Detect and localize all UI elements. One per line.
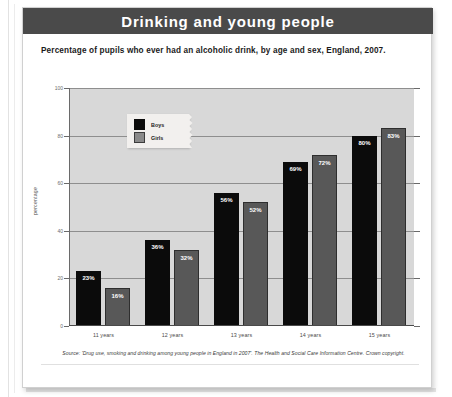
y-axis-tick-right bbox=[414, 183, 420, 184]
bar-boys-14-years[interactable]: 69% bbox=[283, 162, 308, 326]
card-shadow bbox=[26, 388, 436, 392]
y-axis-tick-right bbox=[414, 136, 420, 137]
y-axis-tick-right bbox=[414, 278, 420, 279]
y-axis-tick-label: 0 bbox=[45, 323, 63, 329]
bar-boys-15-years[interactable]: 80% bbox=[352, 136, 377, 326]
bar-boys-13-years[interactable]: 56% bbox=[214, 193, 239, 326]
y-axis-tick-label: 40 bbox=[45, 228, 63, 234]
bar-value-label: 36% bbox=[151, 244, 163, 326]
legend-label-girls: Girls bbox=[151, 135, 163, 141]
page-title: Drinking and young people bbox=[121, 13, 334, 30]
bar-boys-11-years[interactable]: 23% bbox=[76, 271, 101, 326]
bar-boys-12-years[interactable]: 36% bbox=[145, 240, 170, 326]
source-note: Source: 'Drug use, smoking and drinking … bbox=[51, 350, 416, 356]
bar-group: 80%83% bbox=[352, 88, 407, 326]
y-axis-tick-label: 60 bbox=[45, 180, 63, 186]
bar-series-container: 23%16%36%32%56%52%69%72%80%83% bbox=[69, 88, 414, 326]
bar-value-label: 72% bbox=[318, 160, 330, 325]
y-axis-tick-label: 20 bbox=[45, 275, 63, 281]
bar-value-label: 52% bbox=[249, 207, 261, 325]
y-axis-tick-right bbox=[414, 231, 420, 232]
chart-legend: Boys Girls bbox=[127, 114, 189, 148]
legend-label-boys: Boys bbox=[151, 122, 164, 128]
y-axis-title: percentage bbox=[32, 171, 38, 231]
legend-torn-edge-icon bbox=[189, 114, 194, 148]
y-axis-tick-right bbox=[414, 88, 420, 89]
bar-group: 23%16% bbox=[76, 88, 131, 326]
bar-value-label: 69% bbox=[289, 166, 301, 326]
bar-value-label: 16% bbox=[111, 293, 123, 325]
legend-swatch-boys-icon bbox=[134, 119, 145, 130]
y-axis-tick-label: 100 bbox=[45, 85, 63, 91]
x-axis-tick-label: 15 years bbox=[335, 332, 425, 338]
bar-girls-12-years[interactable]: 32% bbox=[174, 250, 199, 326]
chart-subtitle: Percentage of pupils who ever had an alc… bbox=[41, 46, 421, 55]
source-divider bbox=[41, 364, 419, 365]
bar-value-label: 23% bbox=[82, 275, 94, 326]
legend-swatch-girls-icon bbox=[134, 132, 145, 143]
title-bar: Drinking and young people bbox=[23, 8, 433, 34]
bar-girls-11-years[interactable]: 16% bbox=[105, 288, 130, 326]
plot-wrapper: 020406080100 23%16%36%32%56%52%69%72%80%… bbox=[69, 88, 414, 326]
legend-item-boys: Boys bbox=[134, 119, 164, 130]
bar-group: 56%52% bbox=[214, 88, 269, 326]
bar-girls-14-years[interactable]: 72% bbox=[312, 155, 337, 326]
bar-girls-13-years[interactable]: 52% bbox=[243, 202, 268, 326]
page-inner-edge-line bbox=[14, 4, 15, 393]
page-edge-line bbox=[8, 0, 9, 397]
bar-value-label: 56% bbox=[220, 197, 232, 326]
legend-item-girls: Girls bbox=[134, 132, 163, 143]
bar-value-label: 83% bbox=[387, 133, 399, 325]
bar-girls-15-years[interactable]: 83% bbox=[381, 128, 406, 326]
bar-value-label: 32% bbox=[180, 255, 192, 325]
y-axis-tick-label: 80 bbox=[45, 133, 63, 139]
y-axis-tick bbox=[64, 326, 69, 327]
bar-value-label: 80% bbox=[358, 140, 370, 326]
y-axis-tick-right bbox=[414, 326, 420, 327]
x-axis-line bbox=[69, 325, 414, 326]
chart-card: Drinking and young people Percentage of … bbox=[22, 7, 432, 388]
bar-group: 69%72% bbox=[283, 88, 338, 326]
